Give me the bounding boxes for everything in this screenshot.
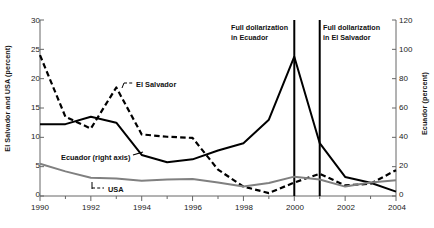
inflation-chart-figure: El Salvador and USA (percent) Ecuador (p… [0,0,434,228]
annotation-vertical-lines [294,20,319,196]
label-leader-lines [92,83,143,189]
y-axis-left-ticks [40,20,44,196]
leader-el-salvador-stem [122,83,124,88]
x-axis-ticks [40,196,396,201]
plot-area [0,0,434,228]
data-series-group [40,55,396,193]
